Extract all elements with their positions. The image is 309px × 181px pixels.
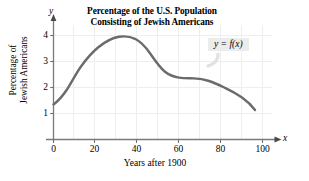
y-axis-title: Percentage of Jewish Americans — [8, 18, 34, 122]
x-tick-label-40: 40 — [125, 144, 149, 154]
x-axis-title: Years after 1900 — [55, 158, 255, 168]
chart-figure: Percentage of the U.S. Population Consis… — [0, 0, 309, 181]
x-axis — [46, 137, 282, 143]
callout-leader-line — [208, 54, 218, 66]
y-tick-label-4: 4 — [36, 30, 48, 40]
x-tick-label-100: 100 — [251, 144, 275, 154]
x-tick-label-20: 20 — [83, 144, 107, 154]
x-tick-label-80: 80 — [209, 144, 233, 154]
x-axis-letter: x — [283, 133, 287, 143]
y-tick-label-2: 2 — [36, 82, 48, 92]
curve-label-box: y = f(x) — [208, 38, 249, 51]
y-axis-title-line-1: Percentage of — [8, 18, 19, 122]
y-tick-label-3: 3 — [36, 56, 48, 66]
x-tick-label-60: 60 — [167, 144, 191, 154]
y-tick-label-1: 1 — [36, 108, 48, 118]
y-axis-title-line-2: Jewish Americans — [19, 18, 30, 122]
y-axis-letter: y — [49, 6, 53, 16]
y-axis — [51, 14, 57, 140]
x-tick-label-0: 0 — [42, 144, 66, 154]
